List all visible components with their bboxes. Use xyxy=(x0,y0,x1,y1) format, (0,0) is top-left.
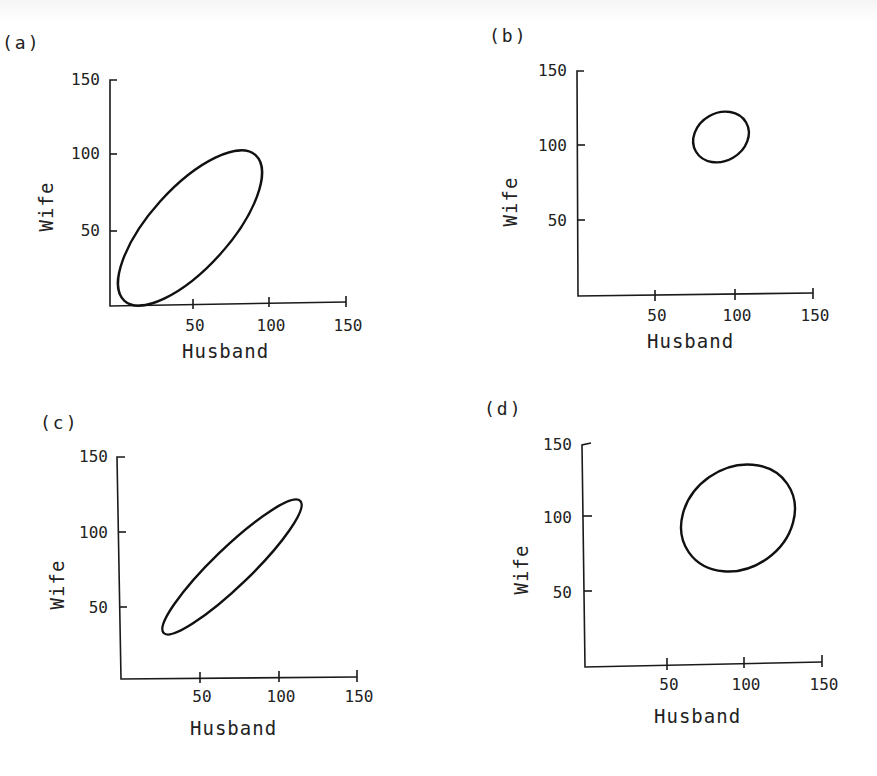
y-axis-title: Wife xyxy=(512,545,531,595)
axes xyxy=(582,443,822,667)
x-tick: 100 xyxy=(721,677,771,693)
y-tick: 150 xyxy=(528,437,572,453)
x-tick: 50 xyxy=(644,677,694,693)
x-axis-title: Husband xyxy=(654,707,741,726)
x-tick: 150 xyxy=(799,677,849,693)
y-tick: 50 xyxy=(528,585,572,601)
ellipse-contour xyxy=(660,443,816,594)
plot-area xyxy=(0,0,877,776)
y-tick: 100 xyxy=(528,510,572,526)
